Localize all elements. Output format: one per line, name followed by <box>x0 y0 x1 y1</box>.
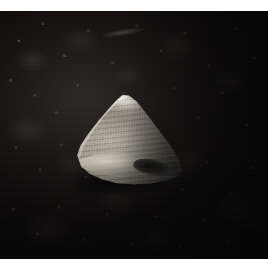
border-margin-bottom <box>0 259 277 273</box>
border-margin-right <box>268 0 277 273</box>
seashell-subject <box>74 92 182 188</box>
image-caption <box>0 259 277 273</box>
photograph-plate <box>0 11 268 259</box>
shell-right-flank-shadow <box>74 92 182 188</box>
photograph-frame <box>0 0 277 273</box>
border-margin-top <box>0 0 277 11</box>
